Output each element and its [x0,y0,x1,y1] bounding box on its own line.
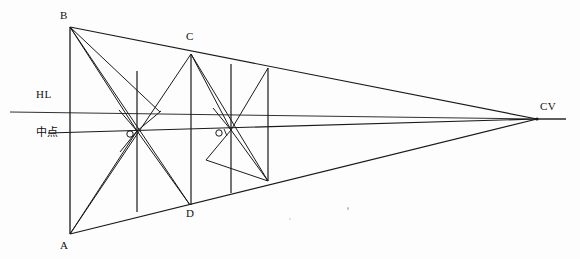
diagonal-O-down-left [120,131,137,152]
marker-O2-prime-tick [224,129,227,136]
diagram-canvas: B C A D HL 中点 CV [0,0,580,259]
label-C: C [186,30,194,42]
diagonal-O2-to-v4-bottom [231,130,268,181]
diagram-line-group [10,27,566,234]
label-D: D [186,207,194,219]
diagonal-A-to-C [70,54,191,234]
vanishing-point-dot [535,117,538,120]
label-B: B [60,9,68,21]
diagonal-C-to-v4-bottom [191,54,268,181]
diagonal-O2-to-bottom-edge [206,160,268,181]
diagonal-O2-to-v4-top [231,68,268,130]
scan-speck [347,207,349,210]
diagonal-C-to-O2 [191,54,231,130]
marker-O2-ring [216,130,222,136]
label-midpoint: 中点 [36,123,58,139]
label-A: A [60,239,68,251]
diagonal-O-to-D [137,131,190,205]
scan-speck [289,218,291,220]
midpoint-line [48,119,537,133]
line-bottom-edge-to-cv [70,119,537,234]
label-horizon-line: HL [36,88,52,100]
diagonal-O2-up-left [213,108,231,130]
marker-O-ring [127,131,133,137]
horizon-line [10,112,537,119]
line-top-edge-to-cv [70,27,537,119]
perspective-diagram-svg [0,0,580,259]
label-center-of-vision: CV [540,100,556,112]
diagonal-O2-down-left [206,130,231,160]
diagonal-B-to-midbar [70,27,160,112]
diagonal-B-to-D [70,27,190,205]
